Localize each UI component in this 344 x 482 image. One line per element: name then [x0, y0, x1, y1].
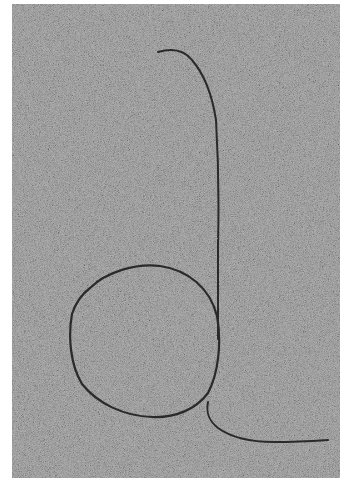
sand-texture: [12, 4, 340, 478]
sand-photo: [12, 4, 340, 478]
sand-drawing: [12, 4, 340, 478]
